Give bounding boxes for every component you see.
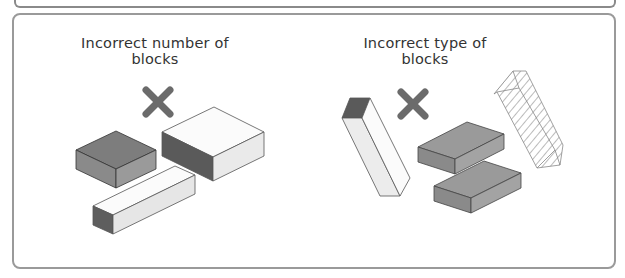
diagram-graphics [0,0,625,278]
x-mark-icon [401,92,425,116]
dark-gray-square-block [76,131,156,188]
x-mark-icon [146,90,170,114]
hatched-transparent-block [494,71,563,168]
